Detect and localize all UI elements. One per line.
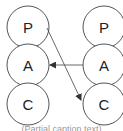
right-node-a: A	[83, 44, 123, 86]
right-node-p: P	[83, 6, 123, 48]
left-node-a-label: A	[23, 57, 33, 74]
right-node-c: C	[83, 83, 123, 125]
edge-left-p-to-right-c	[47, 28, 81, 100]
diagram-caption: (Partial caption text)	[0, 124, 123, 131]
left-node-p: P	[7, 6, 49, 48]
left-node-p-label: P	[23, 19, 33, 36]
right-node-c-label: C	[99, 96, 110, 113]
left-node-c-label: C	[23, 96, 34, 113]
diagram-canvas: P A C P A C	[0, 0, 123, 131]
left-node-c: C	[7, 83, 49, 125]
left-node-a: A	[7, 44, 49, 86]
right-node-p-label: P	[99, 19, 109, 36]
right-node-a-label: A	[99, 57, 109, 74]
